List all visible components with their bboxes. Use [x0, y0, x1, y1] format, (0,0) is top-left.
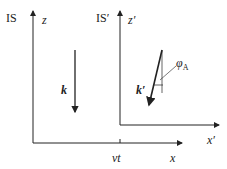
z-label: z	[42, 14, 47, 26]
is-label: IS	[6, 12, 17, 24]
k-label: k	[61, 84, 67, 96]
kprime-label: k′	[136, 84, 145, 96]
diagram-lines	[0, 0, 227, 169]
k-prime-arrow	[149, 50, 162, 105]
xprime-label: x′	[207, 134, 215, 146]
zprime-label: z′	[128, 14, 135, 26]
vt-label: vt	[112, 152, 121, 164]
x-label: x	[170, 152, 175, 164]
phi-label: φA	[176, 57, 188, 74]
angle-pointer	[160, 66, 176, 80]
isprime-label: IS′	[96, 12, 109, 24]
diagram: IS z IS′ z′ k k′ φA vt x x′	[0, 0, 227, 169]
